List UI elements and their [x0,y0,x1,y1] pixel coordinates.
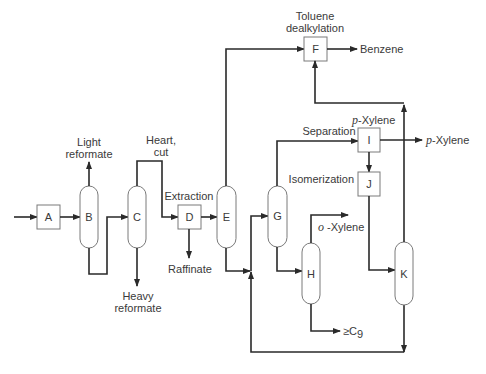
g-feed-stream [251,216,268,271]
svg-text:B: B [85,211,92,223]
svg-text:E: E [223,211,230,223]
raffinate-label: Raffinate [168,263,212,275]
svg-text:G: G [273,210,282,222]
svg-text:reformate: reformate [114,302,161,314]
unit-a: A [37,205,60,229]
isomerization-label: Isomerization [289,173,354,185]
j-to-k-stream [369,196,395,270]
svg-text:C: C [133,211,141,223]
svg-text:D: D [186,211,194,223]
o-xylene-label: o -Xylene [318,220,364,234]
benzene-label: Benzene [360,43,403,55]
unit-k-column: K [395,242,413,305]
process-flow-diagram: A B Light reformate C Heart, cut Heavy r… [0,0,486,374]
unit-j-isomerization: J [358,172,380,196]
svg-text:I: I [367,134,370,146]
unit-b-column: B [80,186,98,248]
svg-text:reformate: reformate [65,148,112,160]
toluene-stream [226,49,304,186]
svg-text:cut: cut [154,146,169,158]
c9-stream [311,304,340,331]
light-reformate-label: Light [77,136,101,148]
g-bottoms-stream [277,247,302,271]
svg-text:H: H [307,268,315,280]
unit-f-dealkylation: F [304,37,327,61]
unit-i-separation: I [358,128,380,152]
e-bottoms-stream [226,248,250,271]
p-xylene-product-label: p-Xylene [425,133,469,147]
svg-text:J: J [366,178,372,190]
svg-text:K: K [400,268,408,280]
c9-label: ≥C9 [343,325,363,340]
svg-text:A: A [45,211,53,223]
toluene-dealkylation-label: Toluene [296,10,335,22]
svg-text:dealkylation: dealkylation [286,22,344,34]
extraction-label: Extraction [165,190,214,202]
unit-h-column: H [302,243,320,304]
heart-cut-label: Heart, [146,134,176,146]
unit-e-column: E [217,186,236,248]
toluene-recycle-stream [315,61,404,103]
unit-g-column: G [268,186,287,247]
heavy-reformate-label: Heavy [122,290,154,302]
recycle-stream [251,272,404,352]
unit-c-column: C [128,186,146,248]
unit-d-extraction: D [178,205,201,229]
svg-text:F: F [312,43,319,55]
separation-label: Separation [302,125,355,137]
p-xylene-top-label: p-Xylene [351,113,395,127]
